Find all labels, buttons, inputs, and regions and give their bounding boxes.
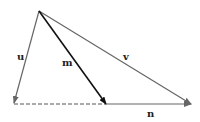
label-n: n — [147, 108, 155, 119]
vector-diagram: u m v n — [0, 0, 200, 122]
label-m: m — [62, 57, 73, 68]
label-u: u — [17, 51, 24, 62]
label-v: v — [122, 51, 130, 62]
